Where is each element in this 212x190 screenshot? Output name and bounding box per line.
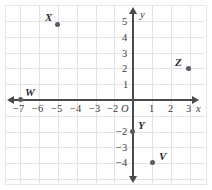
data-point-V: [150, 160, 155, 165]
data-point-label-Z: Z: [175, 57, 182, 68]
gridline-horizontal: [5, 53, 205, 54]
y-tick-label-2: 2: [122, 64, 127, 75]
gridline-horizontal: [5, 68, 205, 69]
x-tick-label--3: −3: [89, 104, 100, 115]
y-axis-label: y: [140, 10, 145, 21]
gridline-horizontal: [5, 163, 205, 164]
data-point-Z: [186, 66, 191, 71]
y-axis-line: [132, 14, 134, 176]
x-axis-line: [14, 99, 192, 101]
gridline-horizontal: [5, 147, 205, 148]
gridline-horizontal: [5, 21, 205, 22]
gridline-vertical: [190, 5, 191, 183]
y-tick-label--3: −3: [116, 143, 127, 154]
gridline-vertical: [152, 5, 153, 183]
x-tick-label--4: −4: [70, 104, 81, 115]
y-tick-label-1: 1: [123, 80, 128, 91]
data-point-label-V: V: [159, 151, 166, 162]
coordinate-plane-figure: y x O −7 −6 −5 −4 −3 −2 1 2 3 5 4 3 2 1 …: [0, 0, 212, 190]
x-tick-label--5: −5: [51, 104, 62, 115]
gridline-vertical: [39, 5, 40, 183]
gridline-vertical: [77, 5, 78, 183]
y-tick-label--4: −4: [116, 158, 127, 169]
x-tick-label--6: −6: [32, 104, 43, 115]
y-tick-label-3: 3: [122, 49, 127, 60]
gridline-vertical: [58, 5, 59, 183]
x-tick-label-2: 2: [168, 104, 173, 115]
x-tick-label-3: 3: [186, 104, 191, 115]
y-axis-down-arrow-icon: [129, 176, 137, 183]
gridline-horizontal: [5, 84, 205, 85]
gridline-vertical: [171, 5, 172, 183]
y-tick-label-4: 4: [122, 33, 127, 44]
y-axis-up-arrow-icon: [129, 7, 137, 14]
data-point-W: [18, 97, 23, 102]
gridline-horizontal: [5, 132, 205, 133]
gridline-vertical: [114, 5, 115, 183]
gridline-vertical: [20, 5, 21, 183]
y-tick-label--2: −2: [116, 127, 127, 138]
data-point-label-X: X: [45, 12, 52, 23]
origin-label: O: [121, 104, 129, 115]
x-tick-label-1: 1: [149, 104, 154, 115]
gridline-horizontal: [5, 179, 205, 180]
gridline-vertical: [96, 5, 97, 183]
data-point-X: [55, 22, 60, 27]
data-point-Y: [130, 129, 135, 134]
x-tick-label--7: −7: [13, 104, 24, 115]
plot-frame: [5, 5, 207, 185]
data-point-label-W: W: [25, 87, 35, 98]
gridline-horizontal: [5, 116, 205, 117]
gridline-horizontal: [5, 37, 205, 38]
data-point-label-Y: Y: [138, 120, 145, 131]
x-tick-label--2: −2: [107, 104, 118, 115]
x-axis-label: x: [196, 104, 201, 115]
y-tick-label-5: 5: [122, 17, 127, 28]
